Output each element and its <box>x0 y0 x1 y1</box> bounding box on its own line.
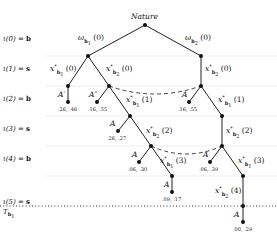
nature-branch-label-2: ωb2 (0) <box>185 34 211 43</box>
payoff-label: .09, .17 <box>162 197 181 202</box>
leaf-node <box>95 100 99 104</box>
node <box>149 144 153 148</box>
node <box>220 144 224 148</box>
action-label: A <box>182 91 187 99</box>
action-label: A′ <box>58 91 65 99</box>
leaf-node <box>187 100 191 104</box>
stage-label-0: ι(0) = b <box>3 35 31 43</box>
edge-label: x*b2 (2) <box>146 127 172 136</box>
stage-label-4: ι(4) = b <box>3 155 31 163</box>
payoff-label: .06, .39 <box>199 167 218 172</box>
leaf-node <box>66 100 70 104</box>
node <box>241 174 245 178</box>
edge-label: x*b1 (3) <box>238 157 264 166</box>
node <box>220 114 224 118</box>
leaf-node <box>170 190 174 194</box>
action-label: A <box>132 151 137 159</box>
payoff-label: .16, .55 <box>178 107 197 112</box>
terminal-time-label: Tb1 <box>3 209 14 216</box>
game-tree-canvas <box>0 0 277 241</box>
edge-label: x*b1 (1) <box>218 96 244 105</box>
stage-label-5: ι(5) = s <box>3 198 30 206</box>
info-set-stage3 <box>151 146 222 154</box>
edge-label: x*b2 (2) <box>226 127 252 136</box>
node <box>66 84 70 88</box>
stage-label-3: ι(3) = s <box>3 125 30 133</box>
stage-label-1: ι(1) = s <box>3 65 30 73</box>
action-label: A <box>164 181 169 189</box>
leaf-node <box>241 220 245 224</box>
node <box>86 54 90 58</box>
action-label: A <box>234 211 239 219</box>
action-label: A″ <box>89 91 97 99</box>
action-label: A <box>110 120 115 128</box>
edge-label: x*b1 (0) <box>50 65 76 74</box>
leaf-node <box>116 129 120 133</box>
node <box>241 204 245 208</box>
nature-branch-label-1: ωb1 (0) <box>78 34 104 43</box>
node <box>107 84 111 88</box>
payoff-label: .26, .46 <box>58 107 77 112</box>
edge-label: x*b1 (3) <box>160 157 186 166</box>
edge-label: x*b2 (4) <box>215 187 241 196</box>
node <box>199 54 203 58</box>
edge-label: x*b2 (0) <box>205 65 231 74</box>
leaf-node <box>137 160 141 164</box>
payoff-label: .26, .27 <box>107 136 126 141</box>
node <box>170 174 174 178</box>
node <box>199 84 203 88</box>
payoff-label: .06, .30 <box>128 167 147 172</box>
edge-label: x*b2 (0) <box>106 65 132 74</box>
payoff-label: .16, .55 <box>88 107 107 112</box>
stage-label-2: ι(2) = b <box>3 95 31 103</box>
action-label: A <box>203 151 208 159</box>
node <box>128 114 132 118</box>
payoff-label: .00, .29 <box>233 227 252 232</box>
node-nature <box>143 23 147 27</box>
leaf-node <box>208 160 212 164</box>
edge-label: x*b1 (1) <box>126 96 152 105</box>
nature-label: Nature <box>131 13 158 21</box>
